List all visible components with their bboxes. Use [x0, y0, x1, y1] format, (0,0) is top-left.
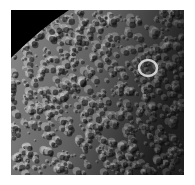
crater-shadow [118, 115, 125, 122]
crater-shadow [111, 71, 117, 77]
crater-shadow [152, 118, 157, 123]
crater-shadow [156, 55, 161, 60]
crater-shadow [69, 132, 72, 135]
crater-shadow [109, 149, 112, 152]
crater-shadow [37, 127, 41, 131]
crater-shadow [41, 70, 45, 74]
crater-shadow [11, 94, 14, 97]
crater-shadow [57, 170, 59, 172]
crater-shadow [47, 118, 50, 121]
crater-shadow [76, 105, 81, 110]
crater-shadow [66, 152, 68, 154]
crater-shadow [158, 90, 163, 95]
crater-shadow [173, 94, 177, 98]
crater-shadow [12, 131, 17, 136]
crater-shadow [131, 147, 137, 153]
crater-shadow [77, 141, 81, 145]
crater-shadow [158, 76, 164, 82]
crater-shadow [88, 140, 91, 143]
crater-shadow [175, 71, 178, 74]
crater-shadow [36, 65, 38, 67]
crater-shadow [145, 99, 149, 103]
crater-shadow [55, 58, 60, 63]
crater-shadow [34, 79, 38, 83]
crater-shadow [35, 39, 37, 41]
crater-shadow [101, 138, 107, 144]
crater-shadow [28, 95, 33, 100]
crater-shadow [120, 16, 122, 18]
crater-shadow [89, 36, 93, 40]
crater-shadow [98, 36, 101, 39]
crater-shadow [177, 115, 179, 117]
crater-shadow [110, 35, 114, 39]
crater-shadow [94, 50, 96, 52]
crater-shadow [148, 121, 151, 124]
crater-shadow [78, 111, 80, 113]
crater-shadow [176, 46, 182, 52]
crater-shadow [149, 134, 152, 137]
crater-shadow [32, 41, 37, 46]
crater-shadow [62, 54, 64, 56]
crater-shadow [90, 113, 92, 115]
crater-shadow [156, 19, 160, 23]
crater-shadow [54, 111, 58, 115]
crater-shadow [97, 161, 99, 163]
crater-shadow [36, 115, 40, 119]
crater-shadow [72, 64, 76, 68]
crater-shadow [101, 157, 106, 162]
crater-shadow [33, 83, 38, 88]
crater-shadow [151, 47, 153, 49]
crater-shadow [180, 145, 183, 148]
crater-shadow [25, 126, 28, 129]
crater-shadow [81, 61, 85, 65]
crater-shadow [109, 152, 114, 157]
crater-shadow [67, 74, 69, 76]
crater-shadow [59, 49, 64, 54]
crater-shadow [173, 83, 176, 86]
crater-shadow [51, 105, 54, 108]
crater-shadow [53, 99, 57, 103]
crater-shadow [44, 126, 50, 132]
crater-shadow [148, 52, 150, 54]
crater-shadow [135, 164, 141, 170]
crater-shadow [146, 103, 148, 105]
crater-shadow [24, 95, 26, 97]
crater-shadow [118, 104, 121, 107]
crater-shadow [126, 102, 132, 108]
crater-shadow [36, 97, 38, 99]
crater-shadow [156, 171, 158, 173]
crater-shadow [151, 127, 155, 131]
crater-shadow [118, 156, 123, 161]
crater-shadow [180, 170, 183, 173]
crater-shadow [122, 36, 125, 39]
crater-shadow [39, 167, 41, 169]
crater-shadow [55, 79, 60, 84]
crater-shadow [57, 105, 61, 109]
crater-shadow [133, 61, 136, 64]
crater-shadow [152, 144, 156, 148]
crater-shadow [71, 155, 73, 157]
crater-shadow [148, 64, 151, 67]
crater-shadow [105, 17, 107, 19]
crater-shadow [56, 145, 58, 147]
crater-shadow [17, 82, 20, 85]
crater-shadow [125, 129, 131, 135]
crater-shadow [131, 138, 137, 144]
crater-shadow [73, 68, 77, 72]
crater-shadow [174, 158, 180, 164]
crater-shadow [74, 155, 76, 157]
crater-shadow [161, 13, 163, 15]
crater-shadow [52, 133, 56, 137]
crater-shadow [164, 48, 169, 53]
crater-shadow [127, 32, 133, 38]
crater-shadow [99, 69, 103, 73]
crater-shadow [98, 103, 104, 109]
crater-shadow [56, 28, 62, 34]
crater-shadow [103, 23, 106, 26]
crater-shadow [27, 163, 30, 166]
crater-shadow [46, 161, 49, 164]
crater-shadow [141, 154, 144, 157]
crater-shadow [83, 128, 86, 131]
crater-shadow [94, 79, 100, 85]
crater-shadow [165, 108, 171, 114]
